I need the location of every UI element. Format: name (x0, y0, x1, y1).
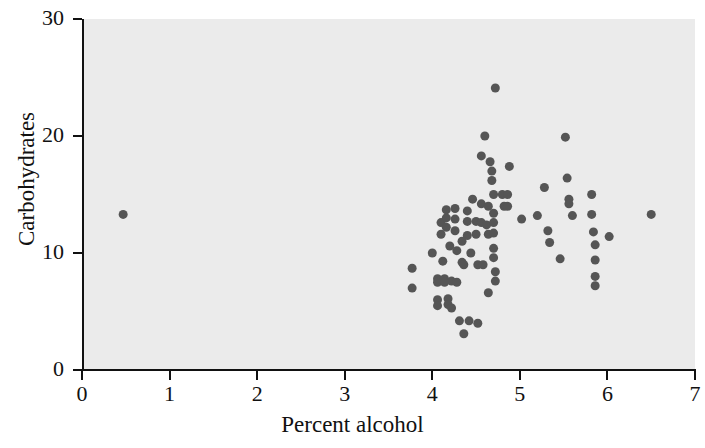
data-point (459, 260, 468, 269)
data-point (489, 209, 498, 218)
y-tick-mark (73, 252, 82, 254)
data-point (465, 316, 474, 325)
data-point (540, 183, 549, 192)
data-point (543, 226, 552, 235)
data-point (561, 133, 570, 142)
data-point (463, 206, 472, 215)
data-point (428, 249, 437, 258)
data-point (486, 157, 495, 166)
data-point (119, 210, 128, 219)
data-point (587, 210, 596, 219)
data-point (459, 329, 468, 338)
data-point (591, 256, 600, 265)
data-point (433, 301, 442, 310)
x-tick-mark (81, 371, 83, 380)
data-points-layer (82, 19, 695, 370)
x-tick-mark (606, 371, 608, 380)
x-tick-label: 5 (505, 382, 535, 406)
data-point (489, 218, 498, 227)
x-tick-mark (694, 371, 696, 380)
y-tick-label: 0 (20, 358, 64, 380)
x-tick-label: 6 (592, 382, 622, 406)
x-tick-mark (256, 371, 258, 380)
x-tick-label: 7 (680, 382, 705, 406)
data-point (533, 211, 542, 220)
y-tick-mark (73, 18, 82, 20)
data-point (463, 217, 472, 226)
data-point (484, 288, 493, 297)
data-point (647, 210, 656, 219)
data-point (479, 260, 488, 269)
data-point (487, 176, 496, 185)
data-point (458, 237, 467, 246)
data-point (545, 238, 554, 247)
y-axis-line (82, 19, 84, 371)
data-point (564, 199, 573, 208)
data-point (489, 229, 498, 238)
data-point (605, 232, 614, 241)
plot-area (82, 19, 695, 370)
data-point (408, 264, 417, 273)
data-point (591, 272, 600, 281)
x-axis-title: Percent alcohol (0, 412, 705, 438)
data-point (466, 249, 475, 258)
data-point (517, 215, 526, 224)
data-point (451, 204, 460, 213)
x-tick-label: 0 (67, 382, 97, 406)
x-tick-label: 4 (417, 382, 447, 406)
data-point (445, 241, 454, 250)
data-point (491, 84, 500, 93)
data-point (438, 257, 447, 266)
data-point (472, 230, 481, 239)
data-point (505, 162, 514, 171)
x-tick-label: 1 (155, 382, 185, 406)
data-point (589, 227, 598, 236)
data-point (568, 211, 577, 220)
data-point (451, 226, 460, 235)
data-point (487, 167, 496, 176)
data-point (591, 240, 600, 249)
x-tick-label: 2 (242, 382, 272, 406)
data-point (442, 223, 451, 232)
data-point (451, 215, 460, 224)
data-point (503, 190, 512, 199)
data-point (408, 284, 417, 293)
data-point (455, 316, 464, 325)
data-point (480, 132, 489, 141)
data-point (563, 174, 572, 183)
data-point (468, 195, 477, 204)
data-point (489, 244, 498, 253)
data-point (489, 253, 498, 262)
x-tick-mark (519, 371, 521, 380)
data-point (491, 277, 500, 286)
data-point (442, 205, 451, 214)
x-tick-mark (169, 371, 171, 380)
data-point (447, 303, 456, 312)
data-point (452, 278, 461, 287)
data-point (503, 202, 512, 211)
x-axis-line (82, 369, 696, 371)
y-axis-title: Carbohydrates (14, 14, 40, 344)
data-point (442, 213, 451, 222)
data-point (477, 151, 486, 160)
scatter-plot-figure: 0102030 01234567 Carbohydrates Percent a… (0, 0, 705, 448)
data-point (587, 190, 596, 199)
y-tick-mark (73, 135, 82, 137)
x-tick-mark (431, 371, 433, 380)
data-point (473, 319, 482, 328)
data-point (556, 254, 565, 263)
x-tick-label: 3 (330, 382, 360, 406)
data-point (591, 281, 600, 290)
data-point (489, 190, 498, 199)
data-point (491, 267, 500, 276)
x-tick-mark (344, 371, 346, 380)
